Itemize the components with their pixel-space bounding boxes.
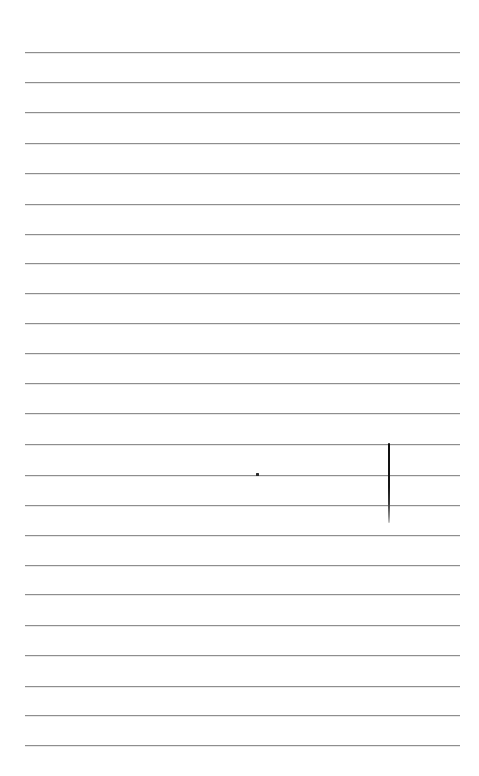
rule-line bbox=[25, 475, 460, 476]
rule-line bbox=[25, 82, 460, 83]
rule-line bbox=[25, 535, 460, 536]
rule-line bbox=[25, 263, 460, 264]
rule-line bbox=[25, 594, 460, 595]
notebook-page bbox=[0, 0, 479, 776]
rule-line bbox=[25, 143, 460, 144]
rule-line bbox=[25, 715, 460, 716]
paper-surface bbox=[0, 0, 479, 776]
rule-line bbox=[25, 112, 460, 113]
rule-line bbox=[25, 444, 460, 445]
rule-line bbox=[25, 383, 460, 384]
rule-line bbox=[25, 413, 460, 414]
rule-line bbox=[25, 52, 460, 53]
rule-line bbox=[25, 625, 460, 626]
rule-line bbox=[25, 686, 460, 687]
rule-line bbox=[25, 173, 460, 174]
rule-line bbox=[25, 323, 460, 324]
rule-line bbox=[25, 745, 460, 746]
rule-line bbox=[25, 204, 460, 205]
rule-line bbox=[25, 353, 460, 354]
rule-line bbox=[25, 293, 460, 294]
rule-line bbox=[25, 505, 460, 506]
rule-line bbox=[25, 655, 460, 656]
rule-line bbox=[25, 565, 460, 566]
ink-dot bbox=[256, 473, 259, 476]
rule-line bbox=[25, 234, 460, 235]
vertical-pen-stroke bbox=[388, 443, 390, 523]
